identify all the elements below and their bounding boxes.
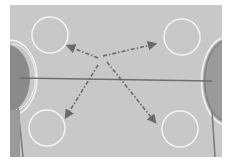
- rink-diagram: [0, 0, 231, 166]
- left-board-strip: [10, 110, 20, 157]
